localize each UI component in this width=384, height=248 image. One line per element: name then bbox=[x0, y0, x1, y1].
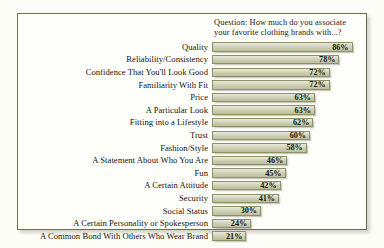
bar: 60% bbox=[212, 131, 310, 140]
bar-rows-container: Quality86%Reliability/Consistency78%Conf… bbox=[18, 41, 366, 243]
bar-value-label: 63% bbox=[295, 93, 314, 102]
bar-value-label: 46% bbox=[267, 156, 286, 165]
bar-track: 30% bbox=[212, 205, 366, 218]
bar: 24% bbox=[212, 219, 251, 228]
bar-category-label: A Particular Look bbox=[18, 106, 212, 115]
chart-row: Social Status30% bbox=[18, 205, 366, 218]
bar-category-label: A Certain Personality or Spokesperson bbox=[18, 219, 212, 228]
chart-row: Price63% bbox=[18, 91, 366, 104]
chart-row: Quality86% bbox=[18, 41, 366, 54]
bar-track: 60% bbox=[212, 129, 366, 142]
bar-track: 63% bbox=[212, 91, 366, 104]
bar-track: 86% bbox=[212, 41, 366, 54]
bar-category-label: Familiarity With Fit bbox=[18, 81, 212, 90]
chart-row: A Statement About Who You Are46% bbox=[18, 154, 366, 167]
chart-row: A Certain Attitude42% bbox=[18, 180, 366, 193]
bar-value-label: 63% bbox=[295, 106, 314, 115]
bar: 46% bbox=[212, 156, 287, 165]
chart-question-title: Question: How much do you associate your… bbox=[214, 18, 362, 39]
bar-value-label: 24% bbox=[231, 219, 250, 228]
chart-row: Fashion/Style58% bbox=[18, 142, 366, 155]
bar-value-label: 42% bbox=[260, 181, 279, 190]
bar: 78% bbox=[212, 55, 339, 64]
chart-row: Fitting into a Lifestyle62% bbox=[18, 117, 366, 130]
bar-track: 42% bbox=[212, 180, 366, 193]
chart-row: Fun45% bbox=[18, 167, 366, 180]
bar-category-label: Confidence That You'll Look Good bbox=[18, 68, 212, 77]
bar-value-label: 21% bbox=[226, 232, 245, 241]
bar-value-label: 78% bbox=[319, 55, 338, 64]
bar-category-label: Fashion/Style bbox=[18, 144, 212, 153]
bar: 42% bbox=[212, 181, 281, 190]
bar-category-label: Social Status bbox=[18, 207, 212, 216]
chart-row: Familiarity With Fit72% bbox=[18, 79, 366, 92]
bar-value-label: 58% bbox=[286, 143, 305, 152]
bar-value-label: 86% bbox=[332, 43, 351, 52]
bar-value-label: 62% bbox=[293, 118, 312, 127]
bar: 86% bbox=[212, 42, 353, 51]
bar-category-label: Reliability/Consistency bbox=[18, 55, 212, 64]
bar-track: 45% bbox=[212, 167, 366, 180]
bar-track: 24% bbox=[212, 217, 366, 230]
bar: 41% bbox=[212, 194, 279, 203]
bar-value-label: 72% bbox=[309, 80, 328, 89]
bar: 21% bbox=[212, 231, 246, 240]
bar: 45% bbox=[212, 168, 286, 177]
bar-category-label: Fitting into a Lifestyle bbox=[18, 118, 212, 127]
bar: 72% bbox=[212, 68, 330, 77]
bar: 63% bbox=[212, 105, 315, 114]
bar-track: 58% bbox=[212, 142, 366, 155]
bar-track: 62% bbox=[212, 117, 366, 130]
chart-row: Security41% bbox=[18, 192, 366, 205]
bar-category-label: A Certain Attitude bbox=[18, 181, 212, 190]
bar-track: 63% bbox=[212, 104, 366, 117]
bar-track: 41% bbox=[212, 192, 366, 205]
chart-frame: Question: How much do you associate your… bbox=[17, 13, 367, 230]
bar-value-label: 30% bbox=[241, 206, 260, 215]
chart-row: Trust60% bbox=[18, 129, 366, 142]
bar-track: 78% bbox=[212, 54, 366, 67]
chart-row: A Particular Look63% bbox=[18, 104, 366, 117]
bar-category-label: Security bbox=[18, 194, 212, 203]
bar: 62% bbox=[212, 118, 313, 127]
bar-category-label: Trust bbox=[18, 131, 212, 140]
chart-row: Confidence That You'll Look Good72% bbox=[18, 66, 366, 79]
bar-category-label: A Statement About Who You Are bbox=[18, 156, 212, 165]
bar: 72% bbox=[212, 80, 330, 89]
bar: 63% bbox=[212, 93, 315, 102]
bar: 58% bbox=[212, 143, 307, 152]
bar-track: 21% bbox=[212, 230, 366, 243]
bar-track: 46% bbox=[212, 154, 366, 167]
bar-value-label: 72% bbox=[309, 68, 328, 77]
chart-row: A Certain Personality or Spokesperson24% bbox=[18, 217, 366, 230]
bar-track: 72% bbox=[212, 66, 366, 79]
bar-track: 72% bbox=[212, 79, 366, 92]
bar-category-label: A Common Bond With Others Who Wear Brand bbox=[18, 232, 212, 241]
chart-row: Reliability/Consistency78% bbox=[18, 54, 366, 67]
bar-category-label: Quality bbox=[18, 43, 212, 52]
chart-row: A Common Bond With Others Who Wear Brand… bbox=[18, 230, 366, 243]
bar-category-label: Price bbox=[18, 93, 212, 102]
bar-value-label: 45% bbox=[265, 169, 284, 178]
bar-category-label: Fun bbox=[18, 169, 212, 178]
question-line-1: Question: How much do you associate bbox=[214, 18, 362, 28]
bar: 30% bbox=[212, 206, 261, 215]
bar-value-label: 41% bbox=[259, 194, 278, 203]
bar-value-label: 60% bbox=[290, 131, 309, 140]
question-line-2: your favorite clothing brands with...? bbox=[214, 28, 362, 38]
